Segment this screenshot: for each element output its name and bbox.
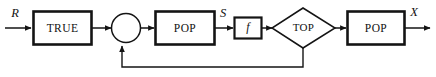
pop-block-2[interactable]: POP: [348, 12, 405, 45]
pop-block-2-label: POP: [365, 22, 387, 34]
output-signal-label: X: [409, 5, 419, 19]
pop-block-1[interactable]: POP: [156, 12, 215, 45]
input-signal-label: R: [10, 6, 19, 20]
block-diagram-svg: TRUE POP f TOP POP R S X: [0, 0, 436, 77]
f-block[interactable]: f: [235, 18, 262, 39]
sum-junction[interactable]: [112, 14, 141, 43]
wire-feedback-top-to-sum: [122, 46, 303, 67]
true-block[interactable]: TRUE: [34, 12, 92, 45]
block-diagram-canvas: TRUE POP f TOP POP R S X: [0, 0, 436, 77]
top-decision-label: TOP: [293, 21, 314, 33]
sum-junction-shape: [112, 14, 141, 43]
top-decision[interactable]: TOP: [272, 8, 335, 48]
pop-block-1-label: POP: [174, 22, 196, 34]
internal-signal-label: S: [220, 6, 227, 20]
true-block-label: TRUE: [47, 22, 79, 34]
